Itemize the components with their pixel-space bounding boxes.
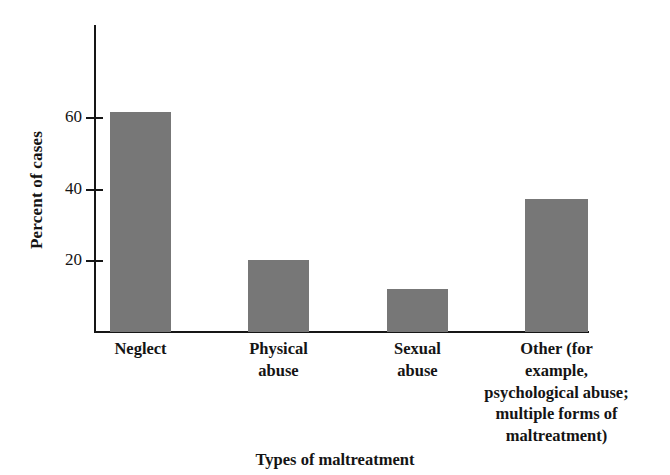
- x-axis-category-label: Physicalabuse: [199, 338, 359, 382]
- category-label-line: maltreatment): [452, 425, 662, 447]
- x-axis-title: Types of maltreatment: [0, 450, 670, 470]
- category-label-line: psychological abuse;: [452, 382, 662, 404]
- bar: [248, 260, 309, 332]
- category-label-line: abuse: [199, 360, 359, 382]
- category-label-line: Neglect: [66, 338, 216, 360]
- bar: [110, 112, 171, 332]
- category-label-line: multiple forms of: [452, 403, 662, 425]
- bar-chart-figure: Percent of cases 204060 NeglectPhysicala…: [0, 0, 670, 475]
- bar: [525, 199, 588, 332]
- category-label-line: Physical: [199, 338, 359, 360]
- x-axis-category-label: Neglect: [66, 338, 216, 360]
- x-axis-category-label: Other (forexample,psychological abuse;mu…: [452, 338, 662, 447]
- category-label-line: example,: [452, 360, 662, 382]
- bar: [387, 289, 448, 332]
- category-label-line: Other (for: [452, 338, 662, 360]
